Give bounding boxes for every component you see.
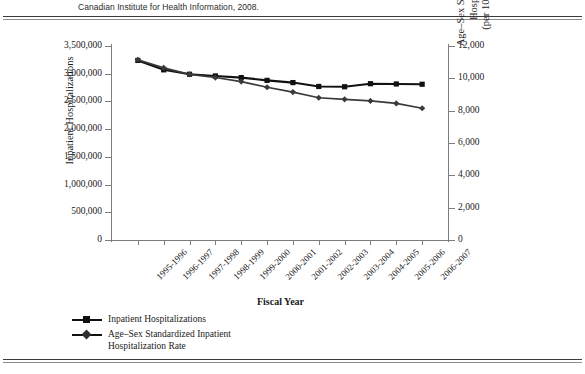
x-axis-tick — [138, 240, 139, 245]
series-marker — [342, 96, 348, 102]
legend-diamond-icon — [72, 329, 102, 341]
series-marker — [135, 57, 141, 63]
series-marker — [316, 95, 322, 101]
y-axis-right-tick — [448, 143, 455, 144]
series-1 — [135, 58, 425, 90]
x-axis-tick — [190, 240, 191, 245]
x-axis-tick — [422, 240, 423, 245]
y-axis-left-ticklabel: 0 — [42, 234, 102, 244]
y-axis-right-tick — [448, 208, 455, 209]
figure-container: Canadian Institute for Health Informatio… — [0, 0, 585, 374]
x-axis-tick — [396, 240, 397, 245]
x-axis-title: Fiscal Year — [112, 296, 449, 307]
y-axis-right-ticklabel: 8,000 — [458, 105, 479, 115]
y-axis-right-ticklabel: 4,000 — [458, 169, 479, 179]
series-2 — [135, 57, 426, 112]
y-axis-right-tick — [448, 240, 455, 241]
y-axis-left-tick — [105, 240, 112, 241]
series-marker — [264, 84, 270, 90]
y-axis-right-tick — [448, 46, 455, 47]
y-axis-left-title: Inpatient Hospitalizations — [64, 11, 75, 211]
y-axis-left-tick — [105, 46, 112, 47]
series-marker — [135, 58, 140, 63]
series-marker — [290, 89, 296, 95]
legend-item: Age–Sex Standardized Inpatient Hospitali… — [72, 328, 231, 352]
y-axis-left-tick — [105, 101, 112, 102]
y-axis-right-ticklabel: 0 — [458, 234, 463, 244]
y-axis-right-title-line-3: (per 100,000 Population) — [480, 0, 493, 60]
chart-legend: Inpatient HospitalizationsAge–Sex Standa… — [72, 313, 231, 354]
y-axis-right-tick — [448, 175, 455, 176]
series-marker — [161, 67, 166, 72]
legend-square-icon — [72, 314, 102, 326]
figure-caption: Canadian Institute for Health Informatio… — [78, 2, 259, 12]
x-axis-tick — [215, 240, 216, 245]
x-axis-tick — [319, 240, 320, 245]
divider-bottom — [3, 359, 582, 360]
series-marker — [213, 73, 218, 78]
y-axis-left-tick — [105, 212, 112, 213]
divider-bottom-secondary — [3, 362, 582, 363]
series-marker — [239, 75, 244, 80]
series-marker — [368, 81, 373, 86]
x-axis-tick — [267, 240, 268, 245]
series-marker — [238, 78, 244, 84]
series-marker — [186, 71, 192, 77]
series-marker — [212, 74, 218, 80]
y-axis-left-tick — [105, 157, 112, 158]
y-axis-left-tick — [105, 74, 112, 75]
legend-item-label: Age–Sex Standardized Inpatient Hospitali… — [108, 328, 231, 352]
y-axis-right-title: Age–Sex Standar dized Inpatient Hospital… — [455, 0, 493, 60]
divider-top — [3, 16, 582, 17]
series-line — [138, 60, 422, 108]
series-marker — [290, 80, 295, 85]
series-marker — [187, 72, 192, 77]
x-axis-tick — [293, 240, 294, 245]
series-marker — [316, 84, 321, 89]
legend-item: Inpatient Hospitalizations — [72, 313, 231, 326]
y-axis-left-tick — [105, 185, 112, 186]
series-marker — [393, 100, 399, 106]
series-marker — [420, 82, 425, 87]
series-marker — [264, 78, 269, 83]
series-line — [138, 60, 422, 86]
y-axis-right-title-line-1: Age–Sex Standar dized Inpatient — [455, 0, 468, 60]
x-axis-tick — [241, 240, 242, 245]
x-axis-line — [112, 240, 449, 241]
y-axis-right-title-line-2: Hospitalization Rate — [468, 0, 481, 60]
y-axis-right-tick — [448, 78, 455, 79]
divider-top-secondary — [3, 19, 582, 20]
series-marker — [161, 65, 167, 71]
y-axis-right-ticklabel: 6,000 — [458, 137, 479, 147]
series-marker — [394, 81, 399, 86]
y-axis-right-ticklabel: 10,000 — [458, 72, 484, 82]
x-axis-tick — [164, 240, 165, 245]
series-marker — [342, 84, 347, 89]
series-marker — [419, 105, 425, 111]
y-axis-right-ticklabel: 2,000 — [458, 202, 479, 212]
y-axis-right-tick — [448, 111, 455, 112]
x-axis-tick — [345, 240, 346, 245]
x-axis-tick — [370, 240, 371, 245]
legend-item-label: Inpatient Hospitalizations — [108, 313, 206, 325]
y-axis-left-tick — [105, 129, 112, 130]
series-marker — [367, 98, 373, 104]
